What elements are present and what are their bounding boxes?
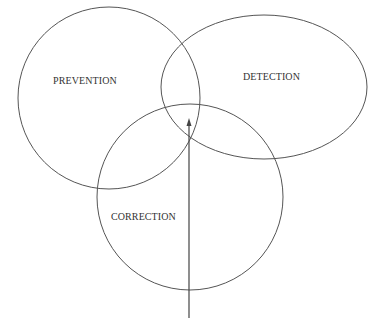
arrow-up-icon bbox=[187, 118, 192, 126]
intersection-arrow bbox=[187, 118, 192, 318]
prevention-circle bbox=[18, 7, 200, 189]
correction-label: CORRECTION bbox=[111, 211, 176, 222]
prevention-label: PREVENTION bbox=[53, 75, 117, 86]
correction-circle bbox=[97, 104, 283, 290]
detection-ellipse bbox=[161, 15, 367, 159]
venn-diagram: PREVENTION DETECTION CORRECTION bbox=[0, 0, 382, 329]
detection-label: DETECTION bbox=[243, 71, 300, 82]
